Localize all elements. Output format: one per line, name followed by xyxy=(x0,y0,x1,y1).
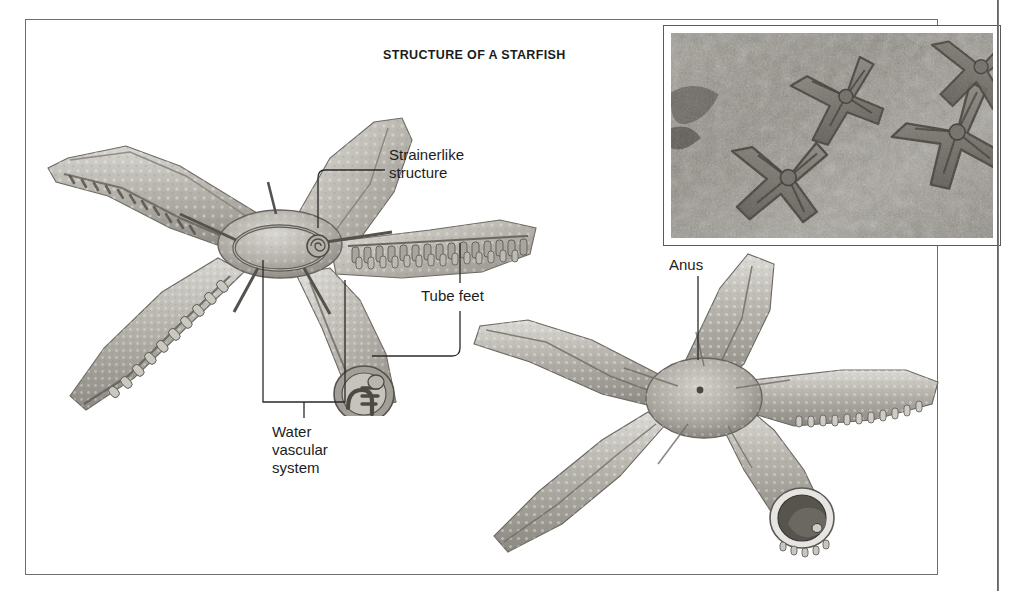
figure-page: STRUCTURE OF A STARFISH xyxy=(0,0,1009,591)
label-anus: Anus xyxy=(669,256,703,274)
page-spine-rule xyxy=(997,0,999,591)
label-strainerlike-structure: Strainerlike structure xyxy=(389,146,464,182)
page-title: STRUCTURE OF A STARFISH xyxy=(383,48,566,62)
starfish-underwater-photograph xyxy=(671,33,993,238)
photo-inset-frame xyxy=(663,25,1001,246)
label-tube-feet: Tube feet xyxy=(421,287,484,305)
label-water-vascular-system: Water vascular system xyxy=(272,423,328,477)
starfish-aboral-view-illustration xyxy=(452,248,952,568)
